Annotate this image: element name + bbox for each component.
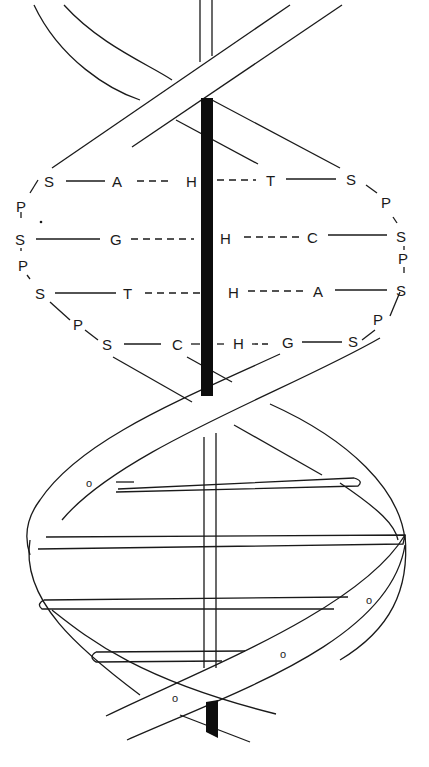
phosphate-label: P <box>381 194 391 211</box>
backbone-bond <box>50 302 70 320</box>
sugar-label: S <box>102 336 112 353</box>
ribbon-front-lower <box>340 535 406 660</box>
backbone-bond <box>27 275 30 279</box>
strand-line <box>176 120 258 164</box>
backbone-bond <box>362 330 375 340</box>
base-label: G <box>282 334 294 351</box>
ribbon-back-top <box>64 5 172 80</box>
rung-4 <box>92 651 245 662</box>
phosphate-label: P <box>373 311 383 328</box>
ribbon-marker: o <box>366 594 372 606</box>
phosphate-label: P <box>398 250 408 267</box>
ribbon-marker: o <box>86 477 92 489</box>
rung-3 <box>39 597 348 609</box>
phosphate-label: P <box>16 198 26 215</box>
central-axis-bar <box>206 700 218 738</box>
backbone-bond <box>85 330 98 340</box>
base-label: A <box>313 283 323 300</box>
sugar-label: S <box>348 333 358 350</box>
sugar-label: S <box>44 173 54 190</box>
rung <box>116 478 360 492</box>
sugar-label: S <box>35 285 45 302</box>
phosphate-label: P <box>18 257 28 274</box>
ribbon-front-top <box>52 5 290 168</box>
rung-2 <box>38 535 405 549</box>
ribbon-front-top <box>132 5 342 147</box>
strand-line <box>113 357 192 402</box>
backbone-bond <box>30 180 38 193</box>
ribbon-marker: o <box>172 692 178 704</box>
hydrogen-bond-label: H <box>233 335 244 352</box>
ribbon-back-lower <box>29 540 140 695</box>
backbone-bond <box>366 185 377 193</box>
strand-line <box>212 100 340 168</box>
ribbon-front-middle <box>62 338 380 520</box>
base-label: T <box>266 172 275 189</box>
hydrogen-bond-label: H <box>186 173 197 190</box>
ribbon-front-middle <box>27 354 280 555</box>
ribbon-front-lower <box>106 535 405 716</box>
sugar-label: S <box>396 228 406 245</box>
base-label: C <box>172 336 183 353</box>
ribbon-front-lower <box>127 545 405 740</box>
sugar-label: S <box>15 231 25 248</box>
ribbon-marker: o <box>280 648 286 660</box>
ribbon-back-middle <box>340 483 398 540</box>
sugar-label: S <box>396 282 406 299</box>
base-label: T <box>123 285 132 302</box>
base-label: G <box>110 231 122 248</box>
central-axis-bar <box>201 98 213 396</box>
phosphate-label: P <box>73 316 83 333</box>
base-label: A <box>112 173 122 190</box>
backbone-bond <box>393 217 397 223</box>
dna-helix-diagram: o o o o S A H T S S G H C S S T H A S S … <box>0 0 429 767</box>
ribbon-back-middle <box>270 404 405 540</box>
base-label: C <box>307 229 318 246</box>
hydrogen-bond-label: H <box>228 284 239 301</box>
strand-line <box>234 425 322 475</box>
sugar-label: S <box>346 171 356 188</box>
hydrogen-bond-label: H <box>220 230 231 247</box>
